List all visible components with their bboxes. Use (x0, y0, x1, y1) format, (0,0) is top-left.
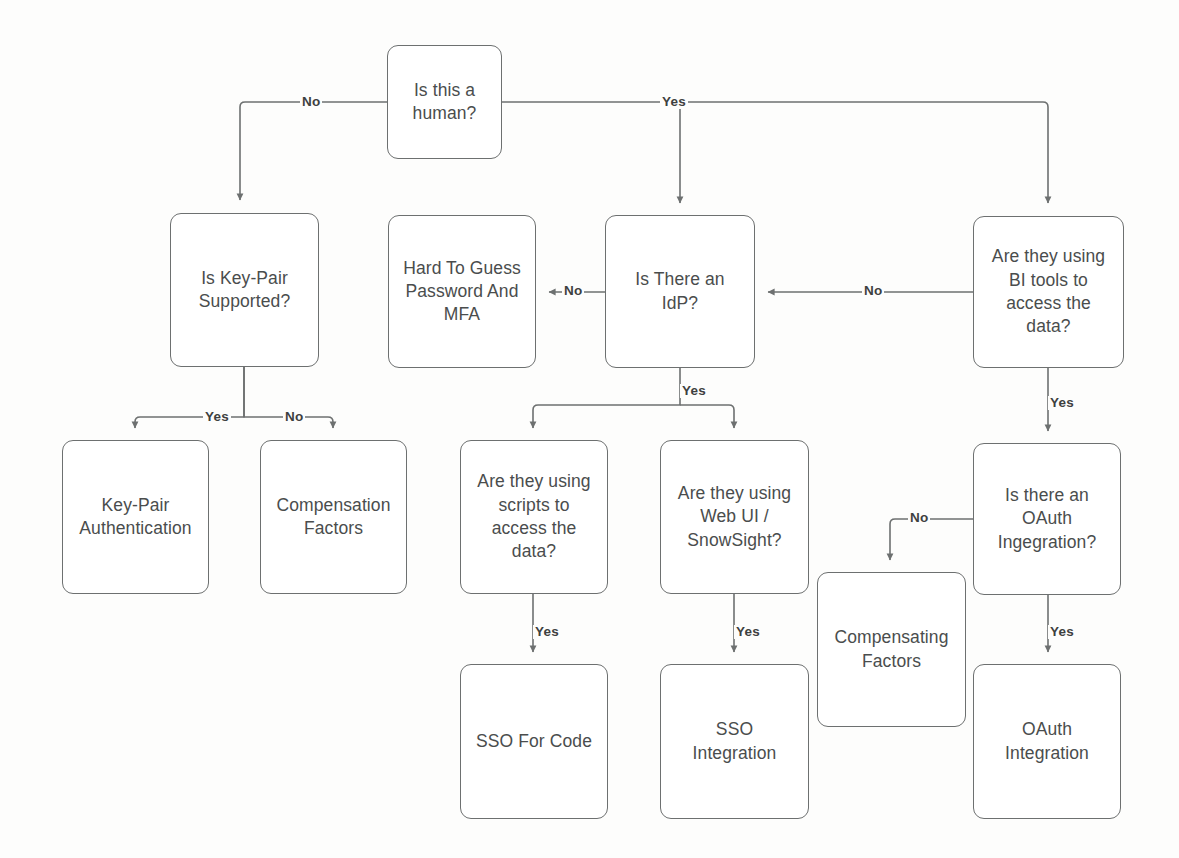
edge-label-keypair-yes: Yes (203, 410, 231, 424)
node-label-is-human: Is this a human? (413, 79, 477, 126)
edge-label-human-yes: Yes (660, 95, 688, 109)
node-label-bi-tools: Are they using BI tools to access the da… (992, 245, 1105, 338)
node-sso-integration[interactable]: SSO Integration (660, 664, 809, 819)
node-compensation-factors[interactable]: Compensation Factors (260, 440, 407, 594)
edge-label-idp-no: No (562, 284, 584, 298)
node-hard-to-guess[interactable]: Hard To Guess Password And MFA (388, 215, 536, 368)
node-label-hard-to-guess: Hard To Guess Password And MFA (403, 257, 521, 327)
node-label-compensating-factors: Compensating Factors (834, 626, 948, 673)
flowchart-canvas: Is this a human?Is Key-Pair Supported?Ha… (0, 0, 1179, 858)
node-label-sso-for-code: SSO For Code (476, 730, 592, 753)
node-label-is-there-idp: Is There an IdP? (635, 268, 724, 315)
node-sso-for-code[interactable]: SSO For Code (460, 664, 608, 819)
connector-idp-yes (533, 368, 680, 428)
node-label-oauth-integration: OAuth Integration (1005, 718, 1089, 765)
connector-idp-yes-webui (680, 405, 734, 428)
node-is-there-idp[interactable]: Is There an IdP? (605, 215, 755, 368)
node-bi-tools[interactable]: Are they using BI tools to access the da… (973, 216, 1124, 368)
node-label-web-ui: Are they using Web UI / SnowSight? (678, 482, 791, 552)
node-label-scripts: Are they using scripts to access the dat… (477, 470, 590, 563)
node-label-sso-integration: SSO Integration (693, 718, 777, 765)
edge-label-webui-yes: Yes (734, 625, 762, 639)
connector-oauth-no (890, 519, 973, 560)
node-compensating-factors[interactable]: Compensating Factors (817, 572, 966, 727)
node-oauth-question[interactable]: Is there an OAuth Ingegration? (973, 443, 1121, 595)
edge-label-bi-no: No (862, 284, 884, 298)
node-label-compensation-factors: Compensation Factors (276, 494, 390, 541)
edge-label-idp-yes: Yes (680, 384, 708, 398)
node-is-human[interactable]: Is this a human? (387, 45, 502, 159)
node-label-key-pair-auth: Key-Pair Authentication (79, 494, 191, 541)
node-key-pair-auth[interactable]: Key-Pair Authentication (62, 440, 209, 594)
node-key-pair-supported[interactable]: Is Key-Pair Supported? (170, 213, 319, 367)
node-scripts[interactable]: Are they using scripts to access the dat… (460, 440, 608, 594)
connector-human-no (240, 102, 387, 200)
edge-label-oauth-no: No (908, 511, 930, 525)
node-oauth-integration[interactable]: OAuth Integration (973, 664, 1121, 819)
node-web-ui[interactable]: Are they using Web UI / SnowSight? (660, 440, 809, 594)
node-label-oauth-question: Is there an OAuth Ingegration? (998, 484, 1097, 554)
edge-label-scripts-yes: Yes (533, 625, 561, 639)
edge-label-keypair-no: No (283, 410, 305, 424)
connector-human-yes (502, 102, 1048, 203)
edge-label-oauth-yes: Yes (1048, 625, 1076, 639)
edge-label-human-no: No (300, 95, 322, 109)
node-label-key-pair-supported: Is Key-Pair Supported? (199, 267, 291, 314)
edge-label-bi-yes: Yes (1048, 396, 1076, 410)
